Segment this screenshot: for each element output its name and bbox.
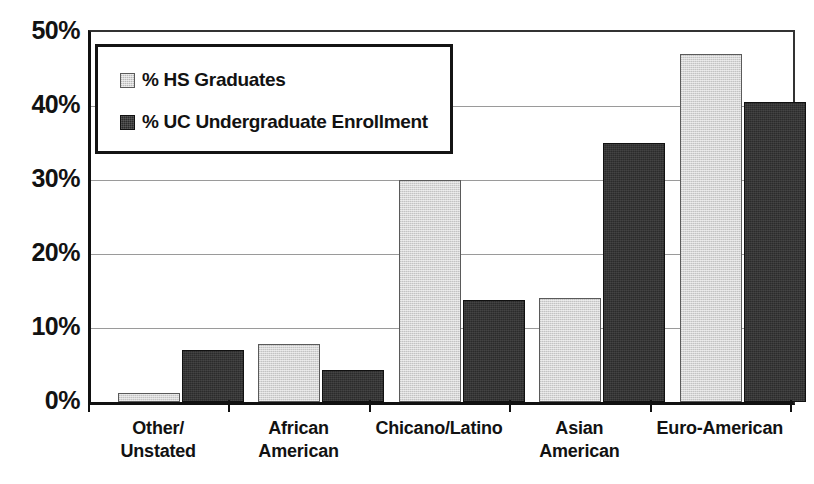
x-axis-tick bbox=[88, 400, 90, 412]
x-axis-category-label-line: African bbox=[228, 417, 368, 440]
chart-legend: % HS Graduates% UC Undergraduate Enrollm… bbox=[95, 44, 453, 154]
x-axis-category-label-line: Other/ bbox=[88, 417, 228, 440]
bar-hs bbox=[258, 344, 320, 402]
x-axis-category-label: Euro-American bbox=[650, 417, 790, 440]
x-axis-category-label-line: American bbox=[228, 440, 368, 463]
bar-chart: 50%40%30%20%10%0% Other/UnstatedAfricanA… bbox=[0, 0, 814, 484]
x-axis-category-label: AfricanAmerican bbox=[228, 417, 368, 463]
y-axis-tick-label: 20% bbox=[2, 238, 80, 267]
x-axis-tick bbox=[650, 400, 652, 412]
x-axis-category-label: AsianAmerican bbox=[509, 417, 649, 463]
x-axis-category-label-line: American bbox=[509, 440, 649, 463]
x-axis-tick bbox=[369, 400, 371, 412]
legend-item-label: % UC Undergraduate Enrollment bbox=[142, 111, 428, 133]
legend-item[interactable]: % UC Undergraduate Enrollment bbox=[120, 101, 450, 143]
x-axis-category-label-line: Euro-American bbox=[650, 417, 790, 440]
legend-item-label: % HS Graduates bbox=[142, 69, 286, 91]
x-axis-category-label-line: Unstated bbox=[88, 440, 228, 463]
x-axis-category-label-line: Chicano/Latino bbox=[369, 417, 509, 440]
x-axis-tick bbox=[509, 400, 511, 412]
bar-hs bbox=[118, 393, 180, 402]
bar-hs bbox=[399, 180, 461, 402]
bar-hs bbox=[539, 298, 601, 402]
bar-group bbox=[653, 32, 793, 402]
x-axis-tick bbox=[228, 400, 230, 412]
y-axis-labels: 50%40%30%20%10%0% bbox=[0, 0, 80, 484]
x-axis-tick bbox=[790, 400, 792, 412]
y-axis-tick-label: 40% bbox=[2, 90, 80, 119]
x-axis-category-label: Chicano/Latino bbox=[369, 417, 509, 440]
x-axis-category-label-line: Asian bbox=[509, 417, 649, 440]
x-axis-category-label: Other/Unstated bbox=[88, 417, 228, 463]
bar-hs bbox=[680, 54, 742, 402]
legend-swatch-hs bbox=[120, 73, 135, 88]
y-axis-tick-label: 50% bbox=[2, 16, 80, 45]
bar-group bbox=[512, 32, 652, 402]
bar-uc bbox=[744, 102, 806, 402]
y-axis-tick-label: 30% bbox=[2, 164, 80, 193]
legend-item[interactable]: % HS Graduates bbox=[120, 59, 450, 101]
y-axis-tick-label: 0% bbox=[2, 386, 80, 415]
y-axis-tick-label: 10% bbox=[2, 312, 80, 341]
legend-swatch-uc bbox=[120, 115, 135, 130]
